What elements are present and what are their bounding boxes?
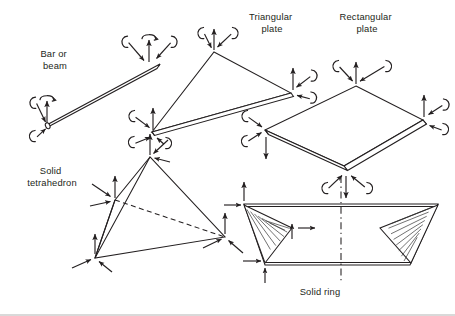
bar-node-left-dof xyxy=(29,96,55,142)
tet-node-midleft-dof xyxy=(90,176,115,206)
solid-ring-element xyxy=(224,176,438,283)
ring-node-bottom-dof xyxy=(243,261,265,283)
solid-ring-section-right xyxy=(380,205,438,263)
tet-node-bottomleft-dof xyxy=(72,234,112,272)
tri-node-apex-dof xyxy=(198,28,238,51)
rect-node-left-dof xyxy=(241,111,266,160)
tetrahedron-body xyxy=(95,157,225,258)
rectangular-plate-element xyxy=(241,61,449,199)
figure-root: Bar or beam Triangular plate Rectangular… xyxy=(0,0,455,316)
rect-node-bottom-dof xyxy=(322,176,373,199)
tet-node-bottomright-dof xyxy=(203,213,243,253)
ring-node-top-dof xyxy=(224,182,244,205)
bar-body xyxy=(44,64,160,129)
label-solid-ring: Solid ring xyxy=(300,286,341,297)
tri-node-right-dof xyxy=(293,68,317,103)
bar-node-right-dof xyxy=(122,35,177,62)
solid-ring-section-left xyxy=(244,205,292,263)
label-triangular-plate: Triangular plate xyxy=(249,11,295,34)
label-rectangular-plate: Rectangular plate xyxy=(340,11,395,34)
rect-node-top-dof xyxy=(333,61,392,85)
label-bar-or-beam: Bar or beam xyxy=(40,48,69,71)
element-types-diagram: Bar or beam Triangular plate Rectangular… xyxy=(0,0,455,316)
triangular-plate-body xyxy=(152,52,294,136)
ring-node-mid-dof xyxy=(292,224,315,239)
label-solid-tetrahedron: Solid tetrahedron xyxy=(27,165,77,188)
rect-node-right-dof xyxy=(424,95,449,135)
solid-tetrahedron-element xyxy=(72,134,243,272)
rectangular-plate-body xyxy=(265,86,427,171)
